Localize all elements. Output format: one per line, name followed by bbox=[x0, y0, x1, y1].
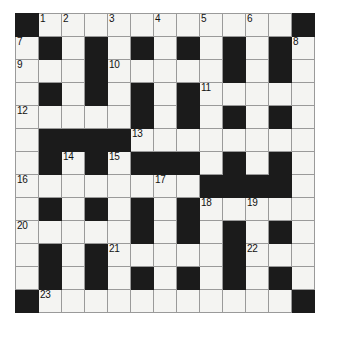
crossword-open-cell[interactable]: 11 bbox=[200, 83, 223, 106]
crossword-open-cell[interactable] bbox=[200, 37, 223, 60]
crossword-open-cell[interactable]: 9 bbox=[16, 60, 39, 83]
crossword-open-cell[interactable] bbox=[200, 60, 223, 83]
crossword-open-cell[interactable]: 15 bbox=[108, 152, 131, 175]
crossword-open-cell[interactable] bbox=[177, 129, 200, 152]
crossword-open-cell[interactable]: 18 bbox=[200, 198, 223, 221]
crossword-open-cell[interactable] bbox=[131, 244, 154, 267]
crossword-open-cell[interactable] bbox=[154, 221, 177, 244]
crossword-open-cell[interactable] bbox=[200, 221, 223, 244]
crossword-open-cell[interactable] bbox=[292, 129, 315, 152]
crossword-open-cell[interactable] bbox=[154, 267, 177, 290]
crossword-open-cell[interactable] bbox=[85, 175, 108, 198]
crossword-open-cell[interactable]: 13 bbox=[131, 129, 154, 152]
crossword-open-cell[interactable] bbox=[16, 198, 39, 221]
crossword-open-cell[interactable] bbox=[292, 152, 315, 175]
crossword-open-cell[interactable] bbox=[62, 198, 85, 221]
crossword-open-cell[interactable] bbox=[269, 198, 292, 221]
crossword-open-cell[interactable] bbox=[177, 290, 200, 313]
crossword-open-cell[interactable]: 4 bbox=[154, 14, 177, 37]
crossword-open-cell[interactable] bbox=[85, 106, 108, 129]
crossword-open-cell[interactable]: 5 bbox=[200, 14, 223, 37]
crossword-grid[interactable]: 1234567891011121314151617181920212223 bbox=[15, 13, 315, 313]
crossword-open-cell[interactable] bbox=[246, 83, 269, 106]
crossword-open-cell[interactable]: 17 bbox=[154, 175, 177, 198]
crossword-open-cell[interactable] bbox=[177, 60, 200, 83]
crossword-open-cell[interactable] bbox=[131, 60, 154, 83]
crossword-open-cell[interactable] bbox=[108, 83, 131, 106]
crossword-open-cell[interactable] bbox=[269, 244, 292, 267]
crossword-open-cell[interactable] bbox=[269, 129, 292, 152]
crossword-open-cell[interactable] bbox=[131, 175, 154, 198]
crossword-open-cell[interactable] bbox=[292, 244, 315, 267]
crossword-open-cell[interactable] bbox=[108, 175, 131, 198]
crossword-open-cell[interactable] bbox=[16, 244, 39, 267]
crossword-open-cell[interactable] bbox=[39, 106, 62, 129]
crossword-open-cell[interactable] bbox=[62, 267, 85, 290]
crossword-open-cell[interactable] bbox=[62, 175, 85, 198]
crossword-open-cell[interactable] bbox=[292, 60, 315, 83]
crossword-open-cell[interactable] bbox=[223, 129, 246, 152]
crossword-open-cell[interactable]: 8 bbox=[292, 37, 315, 60]
crossword-open-cell[interactable]: 10 bbox=[108, 60, 131, 83]
crossword-open-cell[interactable] bbox=[200, 129, 223, 152]
crossword-open-cell[interactable]: 16 bbox=[16, 175, 39, 198]
crossword-open-cell[interactable]: 3 bbox=[108, 14, 131, 37]
crossword-open-cell[interactable]: 23 bbox=[39, 290, 62, 313]
crossword-open-cell[interactable]: 1 bbox=[39, 14, 62, 37]
crossword-open-cell[interactable] bbox=[62, 83, 85, 106]
crossword-open-cell[interactable]: 2 bbox=[62, 14, 85, 37]
crossword-open-cell[interactable] bbox=[108, 267, 131, 290]
crossword-open-cell[interactable] bbox=[16, 83, 39, 106]
crossword-open-cell[interactable] bbox=[246, 267, 269, 290]
crossword-open-cell[interactable] bbox=[177, 14, 200, 37]
crossword-open-cell[interactable] bbox=[246, 221, 269, 244]
crossword-open-cell[interactable] bbox=[62, 60, 85, 83]
crossword-open-cell[interactable]: 20 bbox=[16, 221, 39, 244]
crossword-open-cell[interactable]: 6 bbox=[246, 14, 269, 37]
crossword-open-cell[interactable] bbox=[177, 175, 200, 198]
crossword-open-cell[interactable] bbox=[246, 152, 269, 175]
crossword-open-cell[interactable] bbox=[154, 37, 177, 60]
crossword-open-cell[interactable]: 7 bbox=[16, 37, 39, 60]
crossword-open-cell[interactable] bbox=[131, 14, 154, 37]
crossword-open-cell[interactable] bbox=[269, 83, 292, 106]
crossword-open-cell[interactable] bbox=[223, 198, 246, 221]
crossword-open-cell[interactable] bbox=[108, 290, 131, 313]
crossword-open-cell[interactable] bbox=[223, 290, 246, 313]
crossword-open-cell[interactable] bbox=[108, 106, 131, 129]
crossword-open-cell[interactable] bbox=[154, 244, 177, 267]
crossword-open-cell[interactable] bbox=[62, 244, 85, 267]
crossword-open-cell[interactable] bbox=[108, 37, 131, 60]
crossword-open-cell[interactable] bbox=[292, 106, 315, 129]
crossword-open-cell[interactable] bbox=[62, 106, 85, 129]
crossword-open-cell[interactable] bbox=[269, 290, 292, 313]
crossword-open-cell[interactable] bbox=[200, 106, 223, 129]
crossword-open-cell[interactable] bbox=[292, 175, 315, 198]
crossword-open-cell[interactable] bbox=[154, 198, 177, 221]
crossword-open-cell[interactable] bbox=[108, 221, 131, 244]
crossword-open-cell[interactable]: 12 bbox=[16, 106, 39, 129]
crossword-open-cell[interactable] bbox=[292, 267, 315, 290]
crossword-open-cell[interactable] bbox=[154, 60, 177, 83]
crossword-open-cell[interactable] bbox=[246, 129, 269, 152]
crossword-open-cell[interactable] bbox=[154, 129, 177, 152]
crossword-open-cell[interactable] bbox=[108, 198, 131, 221]
crossword-open-cell[interactable] bbox=[16, 129, 39, 152]
crossword-open-cell[interactable] bbox=[223, 83, 246, 106]
crossword-open-cell[interactable] bbox=[292, 83, 315, 106]
crossword-open-cell[interactable] bbox=[177, 244, 200, 267]
crossword-open-cell[interactable] bbox=[246, 37, 269, 60]
crossword-open-cell[interactable] bbox=[154, 290, 177, 313]
crossword-open-cell[interactable] bbox=[16, 267, 39, 290]
crossword-open-cell[interactable] bbox=[246, 290, 269, 313]
crossword-open-cell[interactable] bbox=[85, 14, 108, 37]
crossword-open-cell[interactable]: 21 bbox=[108, 244, 131, 267]
crossword-open-cell[interactable] bbox=[292, 198, 315, 221]
crossword-open-cell[interactable] bbox=[269, 14, 292, 37]
crossword-open-cell[interactable] bbox=[85, 221, 108, 244]
crossword-open-cell[interactable] bbox=[62, 221, 85, 244]
crossword-open-cell[interactable] bbox=[85, 290, 108, 313]
crossword-open-cell[interactable] bbox=[39, 60, 62, 83]
crossword-open-cell[interactable] bbox=[154, 83, 177, 106]
crossword-open-cell[interactable] bbox=[62, 290, 85, 313]
